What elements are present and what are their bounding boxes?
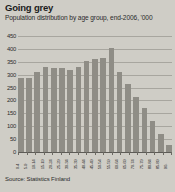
x-axis-tick (112, 152, 113, 155)
bar (166, 145, 172, 152)
x-axis-tick (52, 152, 53, 155)
bar (43, 67, 49, 152)
x-axis-tick (129, 152, 130, 155)
bar (158, 134, 164, 152)
chart-title: Going grey (5, 3, 53, 13)
y-axis-tick-label: 100 (7, 123, 16, 129)
y-axis-tick-label: 350 (7, 59, 16, 65)
bar (59, 68, 65, 152)
x-axis-tick (18, 152, 19, 155)
bar (34, 72, 40, 152)
plot-area (18, 36, 172, 152)
bar (18, 78, 24, 152)
x-axis-tick (163, 152, 164, 155)
bar (109, 48, 115, 152)
x-axis-tick (86, 152, 87, 155)
bar (117, 72, 123, 152)
x-axis-tick (44, 152, 45, 155)
x-axis-tick (27, 152, 28, 155)
y-axis-tick-label: 200 (7, 97, 16, 103)
x-axis-tick (103, 152, 104, 155)
source-note: Source: Statistics Finland (5, 176, 70, 182)
bar (150, 121, 156, 152)
x-axis-tick (69, 152, 70, 155)
y-axis-tick-label: 150 (7, 110, 16, 116)
chart-figure: Going grey Population distribution by ag… (0, 0, 175, 192)
y-axis-tick-label: 400 (7, 46, 16, 52)
bar (26, 78, 32, 152)
y-axis-labels: 050100150200250300350400450 (0, 36, 16, 152)
y-axis-tick-label: 250 (7, 85, 16, 91)
y-axis-tick-label: 50 (10, 136, 16, 142)
x-axis-tick (120, 152, 121, 155)
x-axis-ticks (18, 152, 172, 155)
y-axis-tick-label: 300 (7, 72, 16, 78)
x-axis-labels: 0-45-910-1415-1920-2425-2930-3435-3940-4… (18, 156, 172, 172)
x-axis-tick-label: 90- (164, 164, 175, 170)
y-axis-tick-label: 0 (13, 149, 16, 155)
x-axis-tick (95, 152, 96, 155)
x-axis-tick (61, 152, 62, 155)
bar (76, 67, 82, 152)
y-axis-tick-label: 450 (7, 33, 16, 39)
x-axis-tick (154, 152, 155, 155)
x-axis-tick (137, 152, 138, 155)
bar (142, 108, 148, 152)
bar (67, 70, 73, 152)
x-axis-tick (171, 152, 172, 155)
bar (84, 61, 90, 153)
x-axis-tick (78, 152, 79, 155)
bar (133, 97, 139, 152)
bar (51, 68, 57, 152)
x-axis-tick (35, 152, 36, 155)
bar (100, 58, 106, 152)
bar-series (18, 36, 172, 152)
x-axis-tick (146, 152, 147, 155)
bar (92, 59, 98, 152)
chart-subtitle: Population distribution by age group, en… (5, 14, 152, 22)
bar (125, 84, 131, 152)
